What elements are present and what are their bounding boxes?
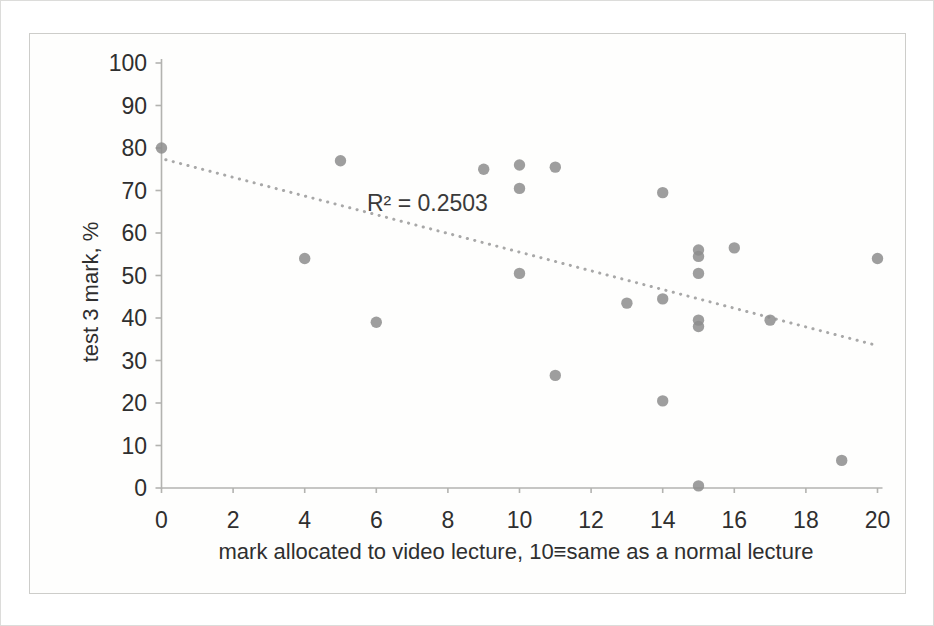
y-tick-label: 60: [121, 220, 147, 246]
data-point: [156, 142, 167, 153]
x-tick-label: 20: [865, 507, 891, 533]
data-point: [371, 317, 382, 328]
x-tick-label: 16: [722, 507, 748, 533]
data-point: [693, 321, 704, 332]
x-tick-label: 0: [155, 507, 168, 533]
data-point: [514, 268, 525, 279]
y-tick-label: 90: [121, 93, 147, 119]
data-point: [693, 268, 704, 279]
data-point: [550, 161, 561, 172]
data-point: [657, 395, 668, 406]
x-tick-label: 6: [370, 507, 383, 533]
data-points: [156, 142, 883, 491]
scatter-plot: 010203040506070809010002468101214161820: [1, 1, 934, 626]
y-tick-label: 100: [109, 50, 147, 76]
y-tick-label: 0: [134, 475, 147, 501]
x-tick-label: 4: [298, 507, 311, 533]
data-point: [836, 455, 847, 466]
data-point: [478, 164, 489, 175]
y-tick-label: 80: [121, 135, 147, 161]
x-tick-label: 8: [442, 507, 455, 533]
y-tick-label: 70: [121, 178, 147, 204]
y-axis-title: test 3 mark, %: [78, 222, 104, 363]
data-point: [693, 480, 704, 491]
y-tick-label: 40: [121, 305, 147, 331]
chart-figure: 010203040506070809010002468101214161820 …: [0, 0, 934, 626]
data-point: [657, 293, 668, 304]
y-tick-label: 30: [121, 348, 147, 374]
x-tick-label: 10: [507, 507, 533, 533]
r-squared-label: R² = 0.2503: [367, 190, 488, 217]
data-point: [729, 242, 740, 253]
y-tick-label: 20: [121, 390, 147, 416]
data-point: [872, 253, 883, 264]
x-tick-label: 18: [793, 507, 819, 533]
x-axis: 02468101214161820: [155, 488, 890, 533]
data-point: [657, 187, 668, 198]
x-axis-title: mark allocated to video lecture, 10≡same…: [219, 539, 814, 565]
y-axis: 0102030405060708090100: [109, 50, 162, 501]
data-point: [621, 297, 632, 308]
y-tick-label: 10: [121, 433, 147, 459]
data-point: [299, 253, 310, 264]
data-point: [764, 314, 775, 325]
data-point: [514, 183, 525, 194]
data-point: [335, 155, 346, 166]
data-point: [693, 251, 704, 262]
x-tick-label: 2: [227, 507, 240, 533]
data-point: [550, 370, 561, 381]
y-tick-label: 50: [121, 263, 147, 289]
x-tick-label: 12: [578, 507, 604, 533]
x-tick-label: 14: [650, 507, 676, 533]
data-point: [514, 159, 525, 170]
